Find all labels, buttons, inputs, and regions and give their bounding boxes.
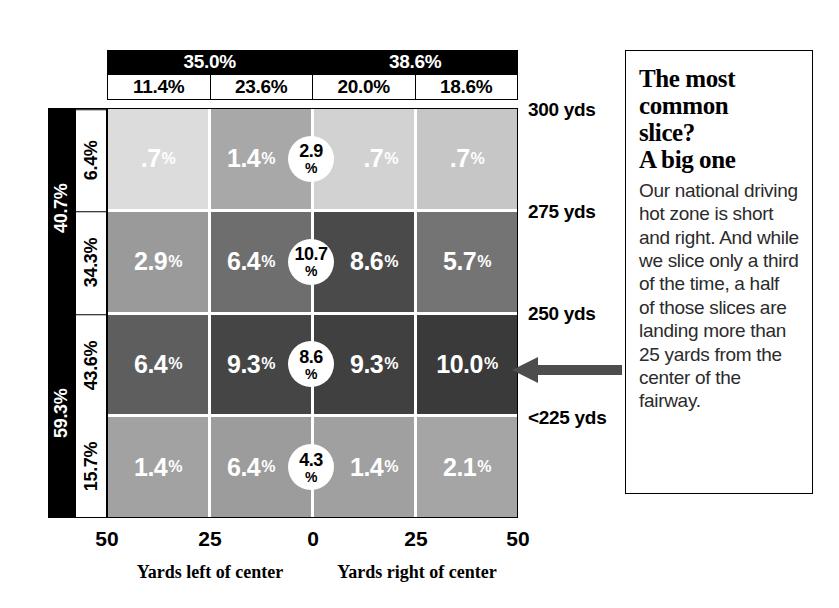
callout-heading: The most common slice? A big one xyxy=(639,65,799,173)
heatmap-cell-r1-c3: 5.7% xyxy=(417,212,517,312)
cell-value: 6.4 xyxy=(227,247,260,276)
x-tick-2: 0 xyxy=(307,527,319,551)
center-circle-value: 2.9 xyxy=(299,142,323,160)
cell-value: .7 xyxy=(141,144,161,173)
row-header-1: 34.3% xyxy=(76,211,106,313)
center-circle-percent-sign: % xyxy=(305,161,317,175)
cell-percent-sign: % xyxy=(384,150,398,168)
heatmap-cell-r2-c1: 9.3%8.6% xyxy=(211,315,311,415)
center-circle-row-3: 4.3% xyxy=(288,444,334,490)
column-header-3: 18.6% xyxy=(416,75,518,99)
cell-percent-sign: % xyxy=(261,253,275,271)
heatmap-cell-r3-c0: 1.4% xyxy=(108,417,208,517)
infographic-root: 35.0% 38.6% 11.4% 23.6% 20.0% 18.6% 40.7… xyxy=(0,0,839,608)
x-tick-0: 50 xyxy=(95,527,118,551)
callout-arrow-icon xyxy=(512,355,622,385)
center-circle-value: 4.3 xyxy=(299,451,323,469)
x-axis-label-left: Yards left of center xyxy=(137,562,283,583)
column-header-2: 20.0% xyxy=(313,75,416,99)
cell-value: 1.4 xyxy=(134,453,167,482)
cell-percent-sign: % xyxy=(384,253,398,271)
x-tick-3: 25 xyxy=(404,527,427,551)
cell-percent-sign: % xyxy=(484,355,498,373)
cell-value: .7 xyxy=(363,144,383,173)
cell-value: 6.4 xyxy=(227,453,260,482)
center-circle-value: 10.7 xyxy=(294,245,327,263)
row-header-0: 6.4% xyxy=(76,109,106,211)
distance-label-300: 300 yds xyxy=(528,99,596,121)
cell-value: 2.9 xyxy=(134,247,167,276)
heatmap-cell-r1-c1: 6.4%10.7% xyxy=(211,212,311,312)
row-group-header-bar: 40.7% 59.3% xyxy=(48,108,75,518)
heatmap-cell-r2-c3: 10.0% xyxy=(417,315,517,415)
center-circle-value: 8.6 xyxy=(299,348,323,366)
heatmap-cell-r3-c1: 6.4%4.3% xyxy=(211,417,311,517)
cell-value: 5.7 xyxy=(443,247,476,276)
center-circle-percent-sign: % xyxy=(305,264,317,278)
row-header-3: 15.7% xyxy=(76,416,106,517)
cell-value: 6.4 xyxy=(134,350,167,379)
heatmap-cell-r0-c3: .7% xyxy=(417,109,517,209)
heatmap-grid-wrapper: .7%1.4%2.9%.7%.7%2.9%6.4%10.7%8.6%5.7%6.… xyxy=(107,108,518,518)
callout-heading-line-2: common xyxy=(639,92,728,119)
row-group-header-top: 40.7% xyxy=(48,108,75,308)
distance-label-225: <225 yds xyxy=(528,407,606,429)
cell-value: 1.4 xyxy=(350,453,383,482)
callout-body: Our national driving hot zone is short a… xyxy=(639,179,799,413)
column-header-0: 11.4% xyxy=(108,75,211,99)
distance-label-275: 275 yds xyxy=(528,201,596,223)
heatmap-cell-r0-c1: 1.4%2.9% xyxy=(211,109,311,209)
cell-percent-sign: % xyxy=(168,355,182,373)
center-circle-row-1: 10.7% xyxy=(288,239,334,285)
x-tick-4: 50 xyxy=(506,527,529,551)
cell-percent-sign: % xyxy=(168,458,182,476)
cell-percent-sign: % xyxy=(477,253,491,271)
cell-value: .7 xyxy=(450,144,470,173)
callout-heading-line-1: The most xyxy=(639,65,735,92)
cell-percent-sign: % xyxy=(261,355,275,373)
center-circle-row-0: 2.9% xyxy=(288,136,334,182)
heatmap-cell-r0-c0: .7% xyxy=(108,109,208,209)
heatmap-cell-r2-c0: 6.4% xyxy=(108,315,208,415)
heatmap-grid: .7%1.4%2.9%.7%.7%2.9%6.4%10.7%8.6%5.7%6.… xyxy=(108,109,517,517)
cell-percent-sign: % xyxy=(162,150,176,168)
center-circle-row-2: 8.6% xyxy=(288,341,334,387)
cell-value: 2.1 xyxy=(443,453,476,482)
column-header-1: 23.6% xyxy=(211,75,314,99)
column-group-header-bar: 35.0% 38.6% xyxy=(107,50,518,74)
cell-value: 10.0 xyxy=(436,350,483,379)
cell-value: 1.4 xyxy=(227,144,260,173)
callout-heading-line-4: A big one xyxy=(639,146,735,173)
column-group-header-right: 38.6% xyxy=(313,50,519,74)
cell-percent-sign: % xyxy=(261,150,275,168)
heatmap-cell-r1-c0: 2.9% xyxy=(108,212,208,312)
distance-label-250: 250 yds xyxy=(528,303,596,325)
row-header-bar: 6.4% 34.3% 43.6% 15.7% xyxy=(75,108,107,518)
center-circle-percent-sign: % xyxy=(305,470,317,484)
row-header-2: 43.6% xyxy=(76,314,106,416)
column-header-bar: 11.4% 23.6% 20.0% 18.6% xyxy=(107,74,518,100)
callout-heading-line-3: slice? xyxy=(639,119,695,146)
row-group-header-bottom: 59.3% xyxy=(48,308,75,518)
cell-percent-sign: % xyxy=(477,458,491,476)
callout-box: The most common slice? A big one Our nat… xyxy=(625,50,813,494)
cell-value: 9.3 xyxy=(350,350,383,379)
cell-percent-sign: % xyxy=(168,253,182,271)
x-axis-label-right: Yards right of center xyxy=(337,562,496,583)
cell-value: 8.6 xyxy=(350,247,383,276)
cell-percent-sign: % xyxy=(261,458,275,476)
cell-percent-sign: % xyxy=(384,458,398,476)
x-tick-1: 25 xyxy=(198,527,221,551)
cell-percent-sign: % xyxy=(384,355,398,373)
center-circle-percent-sign: % xyxy=(305,367,317,381)
cell-value: 9.3 xyxy=(227,350,260,379)
cell-percent-sign: % xyxy=(471,150,485,168)
heatmap-cell-r3-c3: 2.1% xyxy=(417,417,517,517)
column-group-header-left: 35.0% xyxy=(107,50,313,74)
